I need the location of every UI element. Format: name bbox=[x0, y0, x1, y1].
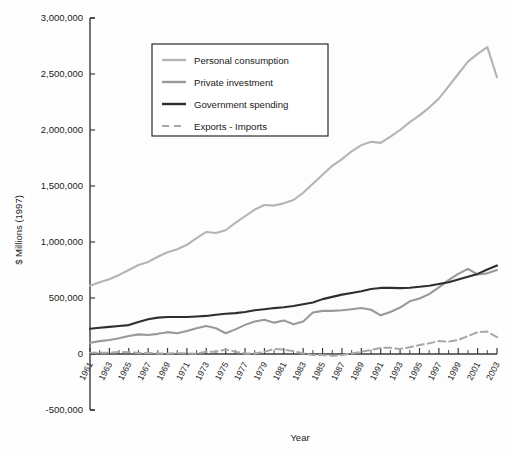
y-tick-label: -500,000 bbox=[45, 404, 83, 415]
line-chart: 3,000,0002,500,0002,000,0001,500,0001,00… bbox=[0, 0, 513, 452]
y-axis-label: $ Millions (1997) bbox=[13, 195, 24, 265]
legend-label: Private investment bbox=[194, 77, 273, 88]
legend-label: Exports - Imports bbox=[194, 121, 267, 132]
y-tick-label: 1,000,000 bbox=[41, 236, 83, 247]
legend-label: Personal consumption bbox=[194, 55, 289, 66]
y-tick-label: 2,000,000 bbox=[41, 124, 83, 135]
y-tick-label: 3,000,000 bbox=[41, 12, 83, 23]
legend-label: Government spending bbox=[194, 99, 288, 110]
y-tick-label: 2,500,000 bbox=[41, 68, 83, 79]
y-tick-label: 500,000 bbox=[49, 292, 83, 303]
x-axis-label: Year bbox=[290, 432, 309, 443]
chart-container: 3,000,0002,500,0002,000,0001,500,0001,00… bbox=[0, 0, 513, 452]
y-tick-label: 1,500,000 bbox=[41, 180, 83, 191]
y-tick-label: 0 bbox=[78, 348, 83, 359]
chart-legend: Personal consumptionPrivate investmentGo… bbox=[152, 44, 328, 136]
